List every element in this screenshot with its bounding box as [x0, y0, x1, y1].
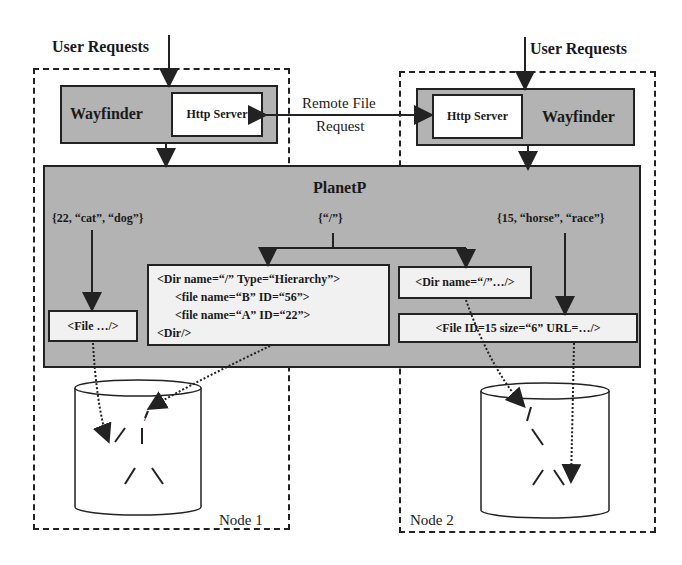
connectors-layer: / — [0, 0, 682, 565]
storage-cylinder-node2 — [481, 383, 609, 518]
storage-cylinder-node1 — [75, 380, 201, 515]
